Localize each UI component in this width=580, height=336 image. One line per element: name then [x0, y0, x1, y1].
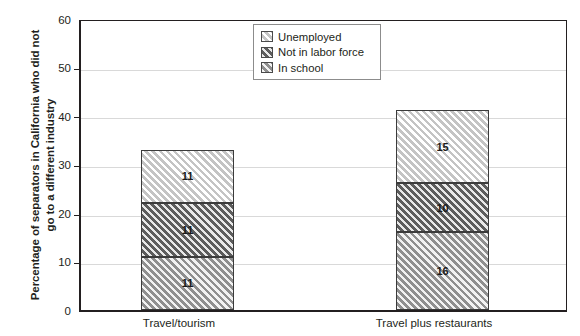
y-tick-label-40: 40	[31, 112, 71, 124]
y-tick-label-60: 60	[31, 15, 71, 27]
x-tick-label-travel-tourism: Travel/tourism	[99, 317, 259, 330]
bar-segment-label-in-school: 11	[182, 277, 194, 289]
legend-swatch-unemployed-icon	[261, 31, 273, 42]
legend-item-unemployed[interactable]: Unemployed	[261, 29, 374, 44]
bar-segment-not-in-labor-force[interactable]: 11	[141, 203, 234, 257]
bar-travel-plus-restaurants[interactable]: 16 10 15	[396, 111, 489, 311]
x-tick-label-travel-plus-restaurants: Travel plus restaurants	[354, 317, 514, 330]
y-tick-label-20: 20	[31, 209, 71, 221]
legend-label-unemployed: Unemployed	[278, 31, 341, 43]
legend-swatch-in-school-icon	[261, 62, 273, 73]
bar-segment-in-school[interactable]: 11	[141, 257, 234, 311]
gridline-40	[81, 118, 566, 119]
y-tick-label-0: 0	[31, 306, 71, 318]
bar-segment-label-in-school: 16	[436, 265, 448, 277]
bar-travel-tourism[interactable]: 11 11 11	[141, 149, 234, 310]
y-tick-label-30: 30	[31, 160, 71, 172]
bar-segment-in-school[interactable]: 16	[396, 232, 489, 310]
legend-item-in-school[interactable]: In school	[261, 60, 374, 75]
y-tick-label-10: 10	[31, 257, 71, 269]
legend-label-in-school: In school	[278, 62, 323, 74]
stacked-bar-chart: Percentage of separators in California w…	[0, 0, 580, 336]
legend-item-not-in-labor-force[interactable]: Not in labor force	[261, 45, 374, 60]
legend-swatch-not-in-labor-force-icon	[261, 47, 273, 58]
bar-segment-label-not-in-labor-force: 10	[436, 202, 448, 214]
bar-segment-unemployed[interactable]: 15	[396, 110, 489, 183]
y-tick-label-50: 50	[31, 63, 71, 75]
legend: Unemployed Not in labor force In school	[253, 24, 381, 80]
bar-segment-label-unemployed: 15	[436, 141, 448, 153]
bar-segment-unemployed[interactable]: 11	[141, 150, 234, 204]
bar-segment-label-unemployed: 11	[182, 170, 194, 182]
legend-label-not-in-labor-force: Not in labor force	[278, 46, 364, 58]
bar-segment-label-not-in-labor-force: 11	[182, 224, 194, 236]
bar-segment-not-in-labor-force[interactable]: 10	[396, 183, 489, 232]
